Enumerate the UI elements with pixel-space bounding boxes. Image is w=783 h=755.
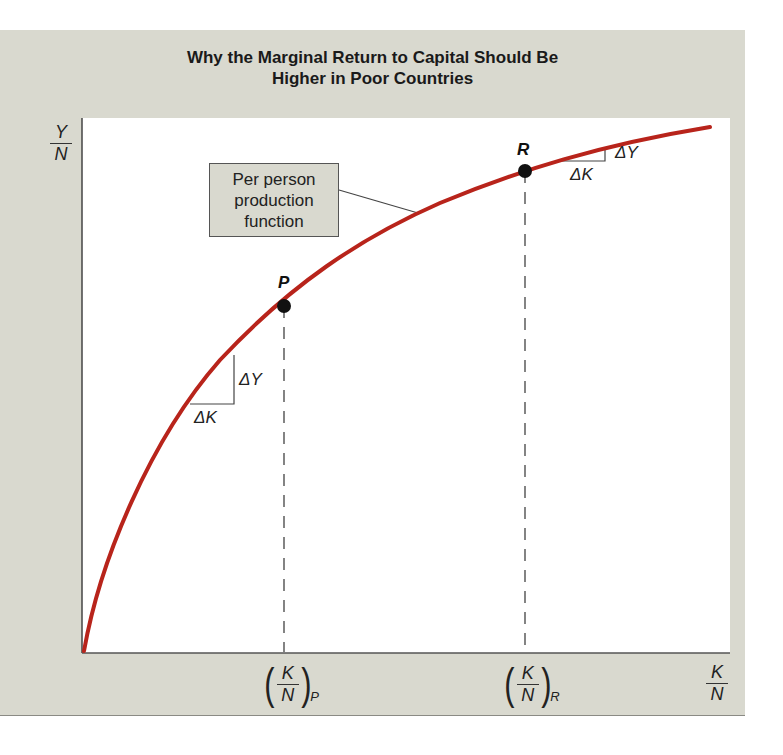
point-p-label: P (278, 273, 289, 293)
point-p-marker (277, 299, 291, 313)
point-r-marker (518, 164, 532, 178)
y-axis-denominator: N (55, 145, 68, 164)
delta-y-label-p: ΔY (239, 370, 262, 390)
production-curve (84, 127, 710, 651)
x-axis-label: K N (706, 662, 728, 704)
y-axis-numerator: Y (55, 123, 67, 142)
curve-callout-box: Per person production function (209, 163, 339, 237)
callout-leader (339, 190, 418, 213)
tick-label-p: ( K N ) P (262, 662, 319, 706)
x-axis-denominator: N (711, 685, 724, 704)
delta-y-label-r: ΔY (615, 143, 638, 163)
delta-k-label-p: ΔK (194, 408, 217, 428)
point-r-label: R (517, 140, 529, 160)
callout-line-2: production (210, 190, 338, 211)
x-axis-numerator: K (711, 663, 723, 682)
tick-p-subscript: P (310, 689, 319, 704)
delta-k-label-r: ΔK (570, 165, 593, 185)
tick-r-denominator: N (521, 686, 534, 705)
y-axis-label: Y N (50, 122, 72, 164)
callout-line-3: function (210, 211, 338, 232)
tick-p-denominator: N (281, 686, 294, 705)
tick-p-numerator: K (282, 664, 294, 683)
tick-r-numerator: K (522, 664, 534, 683)
callout-line-1: Per person (210, 169, 338, 190)
chart-svg (0, 0, 783, 755)
slope-triangle-p (190, 355, 234, 404)
tick-label-r: ( K N ) R (502, 662, 560, 706)
tick-r-subscript: R (550, 689, 559, 704)
